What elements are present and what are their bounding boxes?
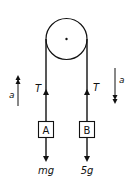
weight-label-b: 5g — [81, 165, 94, 176]
accel-label-right: a — [119, 75, 125, 85]
pulley-axle — [65, 38, 67, 40]
atwood-diagram: T T A mg B 5g a a — [0, 0, 132, 184]
tension-arrow-left-icon — [43, 89, 49, 95]
rope-right — [84, 39, 90, 121]
weight-label-a: mg — [38, 165, 54, 176]
tension-label-left: T — [35, 83, 42, 94]
tension-arrow-right-icon — [84, 89, 90, 95]
block-a: A — [39, 122, 54, 163]
block-b: B — [80, 122, 95, 163]
accel-label-left: a — [9, 90, 15, 100]
block-a-label: A — [43, 125, 50, 136]
accel-arrow-left-icon — [16, 75, 21, 106]
rope-left — [43, 39, 49, 121]
pulley — [46, 19, 87, 60]
tension-label-right: T — [93, 82, 100, 93]
weight-arrow-b-icon — [84, 156, 90, 162]
accel-arrow-right-icon — [113, 68, 118, 104]
block-b-label: B — [84, 125, 91, 136]
weight-arrow-a-icon — [43, 156, 49, 162]
